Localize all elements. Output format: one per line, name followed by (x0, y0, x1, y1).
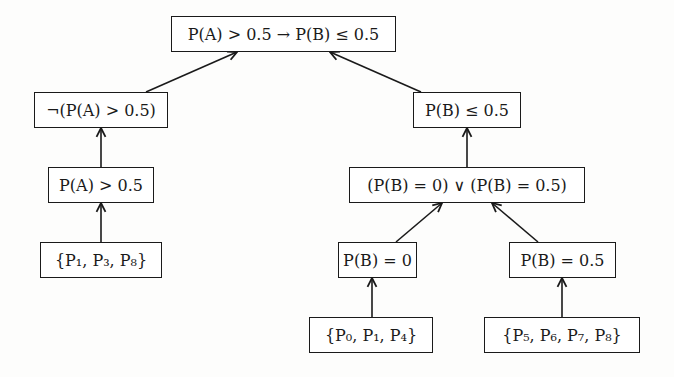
edge-pble-to-root (330, 52, 421, 92)
node-leaf-a: {P₁, P₃, P₈} (40, 242, 162, 278)
node-label: P(A) > 0.5 (59, 176, 143, 195)
node-label: (P(B) = 0) ∨ (P(B) = 0.5) (367, 176, 567, 195)
node-leaf-0: {P₀, P₁, P₄} (309, 317, 433, 353)
node-label: P(B) = 0.5 (520, 251, 604, 270)
node-pb-eq-05: P(B) = 0.5 (509, 242, 616, 278)
edge-neg-to-root (146, 52, 237, 92)
node-label: ¬(P(A) > 0.5) (46, 101, 156, 120)
edge-pb0-to-disj (396, 203, 442, 242)
node-label: {P₀, P₁, P₄} (325, 326, 417, 345)
node-negation-pa: ¬(P(A) > 0.5) (34, 92, 168, 128)
node-pa-gt: P(A) > 0.5 (48, 167, 154, 203)
node-pb-eq-0: P(B) = 0 (338, 242, 417, 278)
derivation-tree-diagram: P(A) > 0.5 → P(B) ≤ 0.5 ¬(P(A) > 0.5) P(… (0, 0, 674, 377)
node-label: P(A) > 0.5 → P(B) ≤ 0.5 (188, 25, 379, 44)
node-leaf-5: {P₅, P₆, P₇, P₈} (484, 317, 640, 353)
edge-pb05-to-disj (492, 203, 538, 242)
node-root-implication: P(A) > 0.5 → P(B) ≤ 0.5 (171, 16, 396, 52)
node-label: P(B) = 0 (343, 251, 412, 270)
node-label: P(B) ≤ 0.5 (425, 101, 509, 120)
node-disjunction: (P(B) = 0) ∨ (P(B) = 0.5) (349, 167, 585, 203)
node-label: {P₁, P₃, P₈} (55, 251, 147, 270)
node-pb-le: P(B) ≤ 0.5 (413, 92, 521, 128)
node-label: {P₅, P₆, P₇, P₈} (502, 326, 622, 345)
